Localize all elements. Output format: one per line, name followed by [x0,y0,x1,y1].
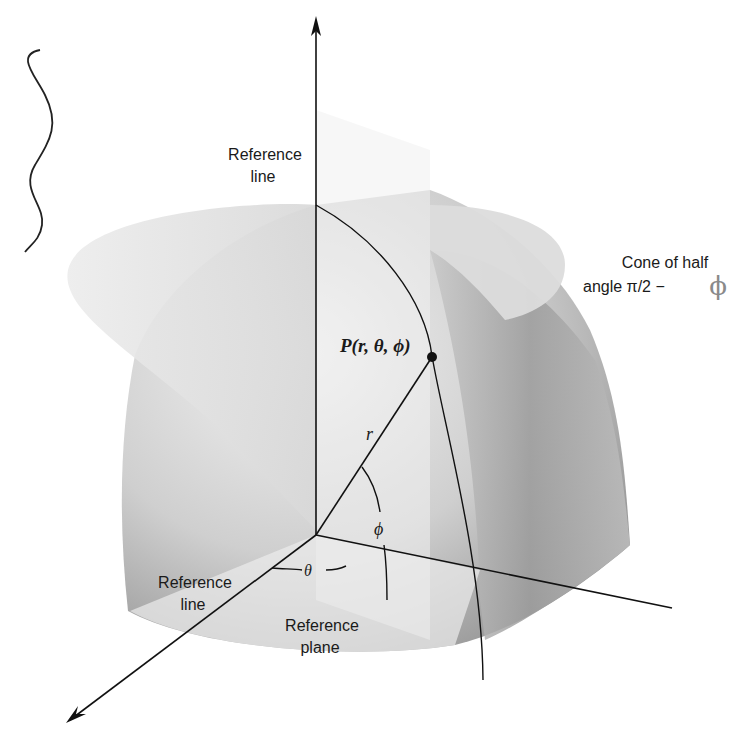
spherical-coordinates-diagram: Reference line Cone of half angle π/2 − … [0,0,742,739]
label-reference-plane: Reference [285,617,359,634]
label-point-p: P(r, θ, ϕ) [339,335,410,357]
label-reference-line-bottom: Reference [158,574,232,591]
label-cone-line-1: Cone of half [622,254,709,271]
label-cone-phi-handwritten: ϕ [709,271,727,301]
handwritten-squiggle [25,50,52,252]
label-reference-plane-2: plane [300,639,339,656]
point-p [427,352,437,362]
label-cone-line-2: angle π/2 − [583,278,665,295]
label-reference-line-top: Reference [228,146,302,163]
label-reference-line-bottom-2: line [181,596,206,613]
reference-line-arrowhead-icon [66,706,86,723]
label-reference-line-top-2: line [251,168,276,185]
label-phi: ϕ [374,519,383,539]
label-radius: r [366,424,374,444]
label-theta: θ [304,562,312,579]
